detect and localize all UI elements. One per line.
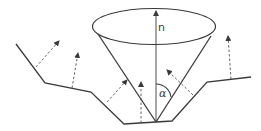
- diagram-canvas: n α: [0, 0, 261, 131]
- surface-profile: [16, 44, 251, 124]
- angle-label: α: [159, 88, 166, 99]
- cone-surface-diagram: [0, 0, 261, 131]
- dashed-normal-arrow-3: [107, 80, 127, 102]
- dashed-normal-arrow-5: [167, 70, 193, 95]
- dashed-normal-arrow-1: [36, 41, 59, 67]
- cone-left-edge: [98, 34, 156, 122]
- normal-label: n: [158, 22, 165, 33]
- cone-rim: [93, 9, 216, 45]
- dashed-normal-arrow-2: [72, 53, 78, 88]
- dashed-normal-arrow-6: [228, 36, 231, 79]
